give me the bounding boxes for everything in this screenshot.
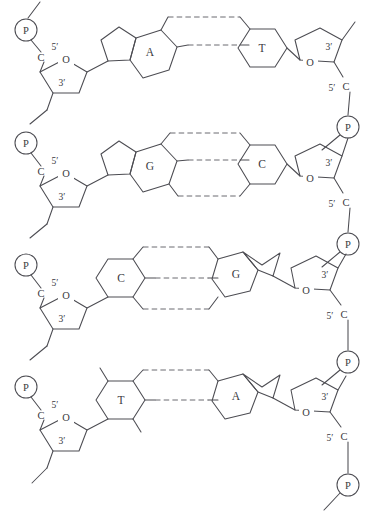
- right-backbone-2: P: [322, 208, 359, 267]
- hbond-stub-upper-row-2: [240, 133, 250, 145]
- five-prime-label-left-4: 5′: [52, 400, 59, 410]
- five-prime-label-right-2: 5′: [329, 199, 336, 209]
- base-cytosine-row-2: C: [238, 145, 287, 184]
- oxygen-label-left-1: O: [62, 54, 70, 65]
- to-next-phosphate-left-2: [30, 224, 47, 238]
- c5-bond-right-4: [330, 412, 341, 427]
- base-pair-row-3: P C 5′ O 3′ C: [15, 247, 359, 385]
- hydrogen-bonds-row-1: [168, 17, 250, 45]
- base-pair-row-1: P C 5′ O 3′ A: [15, 2, 359, 150]
- three-prime-bond-left-2: [47, 207, 53, 224]
- base-thymine-row-1: T: [238, 29, 287, 67]
- hbond-stub-lower-row-3: [209, 297, 218, 309]
- base-adenine-row-1: A: [101, 17, 188, 78]
- base-pair-row-4: P C 5′ O 3′ T: [15, 368, 359, 510]
- five-prime-label-left-3: 5′: [52, 278, 59, 288]
- five-prime-label-right-3: 5′: [327, 311, 334, 321]
- carbon-label-left-4: C: [37, 410, 44, 421]
- three-prime-label-left-2: 3′: [59, 192, 66, 202]
- carbon-label-right-3: C: [340, 309, 347, 320]
- stub-upper-g2: [161, 133, 170, 144]
- left-sugar-3: O 3′: [30, 288, 87, 360]
- three-prime-bond-right-3: [338, 254, 346, 268]
- stub-upper-t4: [133, 370, 143, 381]
- deoxyribose-ring-right-3: [291, 256, 338, 290]
- three-prime-label-right-4: 3′: [322, 392, 329, 402]
- right-backbone-4: P: [324, 442, 359, 510]
- base-guanine-row-2: G: [101, 133, 188, 196]
- oxygen-label-left-4: O: [62, 412, 70, 423]
- c5-to-phosphate-right-2: [348, 208, 350, 232]
- stub-upper-c3: [133, 247, 143, 259]
- oxygen-label-right-2: O: [306, 173, 314, 184]
- glycosidic-bond-left-4: [87, 419, 108, 430]
- three-prime-bond-right-4: [338, 376, 346, 390]
- carbon-label-right-2: C: [342, 197, 349, 208]
- c5-to-phosphate-right-1: [348, 92, 350, 115]
- base-label-c2: C: [258, 158, 266, 170]
- left-sugar-4: O 3′: [32, 410, 87, 483]
- phosphate-to-c5-left-3: [31, 275, 41, 288]
- carbon-label-left-3: C: [37, 288, 44, 299]
- three-prime-label-left-3: 3′: [59, 314, 66, 324]
- stub-mid-g2: [177, 160, 188, 161]
- carbon-label-right-4: C: [340, 431, 347, 442]
- three-prime-bond-left-3: [47, 329, 53, 346]
- c5-bond-right-3: [330, 290, 341, 305]
- oxygen-label-right-4: O: [302, 407, 310, 418]
- base-label-a1: A: [146, 46, 155, 58]
- stub-lower-c3: [133, 297, 143, 309]
- glycosidic-bond-right-4: [273, 398, 295, 410]
- five-prime-label-right-1: 5′: [329, 83, 336, 93]
- right-sugar-2: O 3′ C 5′: [295, 138, 350, 209]
- left-backbone-3: P C 5′: [15, 254, 58, 299]
- phosphate-down-right-4: [324, 493, 340, 510]
- right-backbone-3: P: [322, 320, 359, 385]
- carbonyl-stub-t4: [133, 419, 141, 432]
- five-prime-label-left-1: 5′: [52, 42, 59, 52]
- right-sugar-4: O 3′ C 5′: [291, 376, 348, 443]
- c5-bond-right-2: [334, 178, 343, 193]
- carbon-label-right-1: C: [342, 81, 349, 92]
- c5-bond-right-1: [334, 62, 343, 77]
- phosphate-label-right-3: P: [345, 357, 351, 368]
- three-prime-bond-left-1: [47, 93, 53, 110]
- phosphate-down-right-1: [322, 135, 340, 150]
- deoxyribose-ring-right-2: [295, 144, 342, 178]
- left-backbone-1: P C 5′: [15, 2, 58, 63]
- three-prime-label-right-1: 3′: [326, 42, 333, 52]
- base-label-a4: A: [232, 390, 241, 402]
- left-sugar-1: O 3′: [30, 52, 87, 124]
- oxygen-label-left-2: O: [62, 168, 70, 179]
- phosphate-to-c5-left-4: [31, 397, 41, 410]
- amine-stub-a1: [161, 17, 168, 30]
- base-label-c3: C: [117, 272, 125, 284]
- hbond-stub-upper-row-3: [209, 247, 218, 259]
- phosphate-label-left-2: P: [23, 138, 29, 149]
- oxygen-label-right-3: O: [302, 285, 310, 296]
- glycosidic-bond-right-3: [273, 276, 295, 288]
- phosphate-label-right-2: P: [345, 239, 351, 250]
- left-backbone-4: P C 5′: [15, 376, 58, 421]
- base-guanine-row-3: G: [212, 252, 280, 297]
- five-prime-label-left-2: 5′: [52, 156, 59, 166]
- hbond-stub-lower-row-2: [240, 184, 250, 196]
- base-cytosine-row-3: C: [96, 247, 155, 309]
- to-next-phosphate-left-1: [30, 110, 47, 124]
- glycosidic-bond-left-3: [87, 297, 108, 308]
- base-adenine-row-4: A: [212, 374, 280, 419]
- three-prime-label-right-2: 3′: [326, 158, 333, 168]
- phosphate-label-right-4: P: [345, 480, 351, 491]
- phosphate-label-right-1: P: [345, 122, 351, 133]
- dna-double-helix-diagram: P C 5′ O 3′ A: [0, 0, 374, 522]
- to-next-phosphate-left-3: [30, 346, 47, 360]
- stub-lower-g2: [169, 184, 178, 196]
- three-prime-label-left-4: 3′: [59, 436, 66, 446]
- deoxyribose-ring-right-4: [291, 378, 338, 412]
- phosphate-to-c5-left-2: [31, 153, 41, 166]
- deoxyribose-ring-right-1: [295, 28, 342, 62]
- base-thymine-row-4: T: [96, 368, 155, 432]
- oxygen-label-left-3: O: [62, 290, 70, 301]
- base-label-g3: G: [232, 268, 240, 280]
- hbond-stub-upper-row-4: [209, 370, 218, 381]
